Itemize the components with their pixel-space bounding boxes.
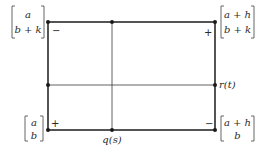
label-r-t: r(t) (219, 79, 236, 90)
corner-dot-bottom-right (213, 128, 217, 132)
midpoint-dot-right (213, 83, 217, 87)
midpoint-dot-bottom (110, 128, 114, 132)
midpoint-dot-top (110, 20, 114, 24)
sign-top-right: + (204, 27, 212, 38)
corner-dot-top-right (213, 20, 217, 24)
bracket-left (25, 116, 28, 141)
bracket-right (251, 116, 254, 141)
vector-bottom-right: a + h b (221, 116, 254, 141)
sign-bottom-right: − (205, 118, 213, 129)
vector-row-2: b (234, 130, 240, 141)
label-q-s: q(s) (102, 134, 121, 145)
corner-dot-top-left (46, 20, 50, 24)
sign-top-left: − (52, 25, 60, 36)
vector-top-left: a b + k (12, 6, 44, 38)
vector-bottom-left: a b (25, 116, 43, 141)
bracket-right (251, 6, 254, 38)
sign-bottom-left: + (51, 118, 59, 129)
vector-row-2: b (31, 130, 37, 141)
vector-row-2: b + k (14, 24, 41, 35)
corner-dot-bottom-left (46, 128, 50, 132)
midpoint-dot-left (46, 83, 50, 87)
vector-row-1: a + h (224, 9, 251, 20)
vector-row-1: a + h (224, 117, 251, 128)
vector-row-2: b + k (224, 24, 251, 35)
vector-top-right: a + h b + k (221, 6, 254, 38)
bracket-right (40, 116, 43, 141)
outer-rectangle (48, 22, 215, 130)
rectangle-diagram: a b + k − a + h b + k + a b + a + h b − … (0, 0, 269, 151)
vector-row-1: a (31, 117, 37, 128)
vector-row-1: a (25, 9, 31, 20)
